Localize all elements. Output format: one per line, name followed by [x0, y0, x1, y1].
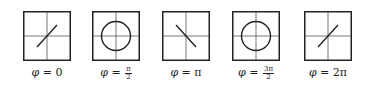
panel-phi-pi-over-2 [92, 11, 140, 61]
label-prefix: φ = [170, 66, 194, 79]
lissajous-line-positive-icon [23, 11, 71, 61]
label-prefix: φ = [100, 66, 124, 79]
label-prefix: φ = [238, 66, 262, 79]
label-phi-0: φ = 0 [12, 64, 82, 82]
lissajous-circle-icon [92, 11, 140, 61]
panel-phi-2pi [304, 11, 352, 61]
panel-phi-0 [23, 11, 71, 61]
fraction-denominator: 2 [125, 74, 132, 81]
label-phi-2pi: φ = 2π [293, 64, 363, 82]
lissajous-circle-icon [232, 11, 280, 61]
lissajous-line-positive-icon [304, 11, 352, 61]
label-fraction: π2 [125, 66, 132, 81]
label-prefix: φ = [32, 66, 56, 79]
label-value: 0 [55, 66, 62, 79]
label-prefix: φ = [309, 66, 333, 79]
panel-phi-pi [162, 11, 210, 61]
label-value: π [194, 66, 201, 79]
label-fraction: 3π2 [263, 66, 274, 81]
label-value: 2π [333, 66, 347, 79]
panel-phi-3pi-over-2 [232, 11, 280, 61]
lissajous-line-negative-icon [162, 11, 210, 61]
label-phi-pi-over-2: φ = π2 [81, 64, 151, 82]
label-phi-3pi-over-2: φ = 3π2 [221, 64, 291, 82]
label-phi-pi: φ = π [151, 64, 221, 82]
fraction-denominator: 2 [263, 74, 274, 81]
